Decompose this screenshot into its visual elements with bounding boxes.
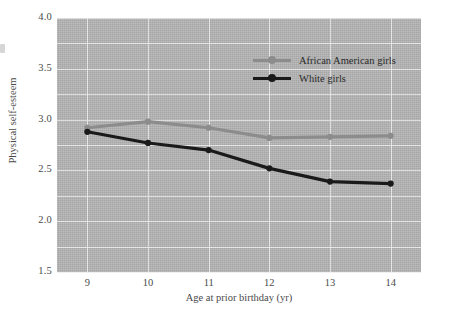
data-point-marker: [206, 125, 212, 131]
legend-swatch-icon: [253, 72, 291, 84]
y-tick-label: 4.0: [0, 11, 52, 22]
legend-label: African American girls: [299, 55, 396, 66]
legend-marker-icon: [268, 56, 276, 64]
legend-item: White girls: [253, 70, 396, 86]
data-point-marker: [206, 147, 212, 153]
data-point-marker: [145, 140, 151, 146]
page-edge-artifact: [0, 44, 5, 53]
y-tick-label: 2.0: [0, 214, 52, 225]
legend-label: White girls: [299, 73, 346, 84]
data-point-marker: [388, 181, 394, 187]
gridline-horizontal: [57, 272, 421, 273]
legend-swatch-icon: [253, 54, 291, 66]
y-axis-label: Physical self-esteem: [7, 26, 18, 216]
physical-self-esteem-line-chart: 1.52.02.53.03.54.0 91011121314 Physical …: [0, 0, 457, 315]
x-tick-label: 13: [310, 277, 350, 288]
y-tick-label: 1.5: [0, 265, 52, 276]
x-tick-label: 12: [249, 277, 289, 288]
x-tick-label: 10: [128, 277, 168, 288]
data-point-marker: [327, 134, 333, 140]
series-line-1: [87, 122, 390, 138]
x-tick-label: 11: [189, 277, 229, 288]
data-point-marker: [84, 129, 90, 135]
data-point-marker: [388, 133, 394, 139]
data-point-marker: [145, 119, 151, 125]
series-line-2: [87, 132, 390, 184]
data-point-marker: [327, 178, 333, 184]
data-point-marker: [266, 165, 272, 171]
x-tick-label: 14: [371, 277, 411, 288]
legend-item: African American girls: [253, 52, 396, 68]
x-axis-label: Age at prior birthday (yr): [57, 292, 421, 303]
x-tick-label: 9: [67, 277, 107, 288]
data-point-marker: [266, 135, 272, 141]
legend-marker-icon: [268, 74, 276, 82]
legend: African American girlsWhite girls: [253, 52, 396, 88]
